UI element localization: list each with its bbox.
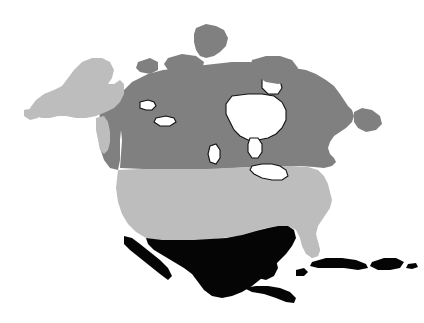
north-america-map-figure: CanadaBritish Columbia coastHudson BayJa… <box>0 0 424 323</box>
region-lake-winnipeg[interactable]: Lake Winnipeg <box>208 144 220 164</box>
region-great-bear-lake[interactable]: Great Bear Lake <box>140 100 156 110</box>
region-great-slave-lake[interactable]: Great Slave Lake <box>154 116 176 126</box>
region-james-bay[interactable]: James Bay <box>248 138 262 158</box>
map-svg: CanadaBritish Columbia coastHudson BayJa… <box>0 0 424 323</box>
